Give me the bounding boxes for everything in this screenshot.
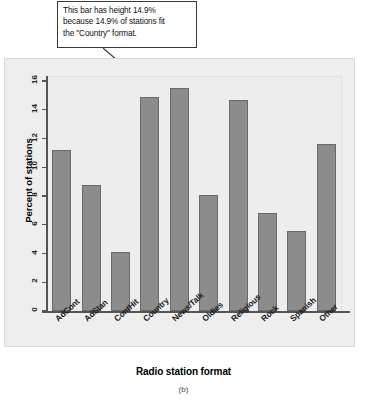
y-axis-tick-label: 12 (30, 129, 39, 145)
y-axis-tick (42, 109, 47, 110)
figure-caption: (b) (0, 385, 367, 394)
bar-other (317, 144, 336, 311)
callout-line-1: This bar has height 14.9% (63, 5, 192, 16)
bar-news-talk (170, 88, 189, 311)
bar-religious (229, 100, 248, 311)
bar-rock (258, 213, 277, 311)
y-axis-tick-label: 0 (30, 302, 39, 318)
y-axis-tick (42, 310, 47, 311)
y-axis-line (46, 76, 48, 312)
y-axis-tick (42, 253, 47, 254)
y-axis-tick-label: 6 (30, 215, 39, 231)
y-axis-tick (42, 167, 47, 168)
y-axis-tick-label: 8 (30, 187, 39, 203)
y-axis-tick (42, 138, 47, 139)
y-axis-tick-label: 2 (30, 273, 39, 289)
y-axis-tick-label: 10 (30, 158, 39, 174)
bar-country (140, 97, 159, 311)
callout-line-2: because 14.9% of stations fit (63, 16, 192, 27)
annotation-callout-box: This bar has height 14.9% because 14.9% … (57, 1, 197, 48)
bar-adcont (52, 150, 71, 311)
y-axis-tick (42, 224, 47, 225)
callout-line-3: the "Country" format. (63, 28, 192, 39)
y-axis-tick-label: 14 (30, 100, 39, 116)
bar-spanish (287, 231, 306, 312)
y-axis-tick (42, 80, 47, 81)
bar-adstan (82, 185, 101, 312)
x-axis-title: Radio station format (0, 366, 367, 377)
y-axis-tick-label: 16 (30, 72, 39, 88)
y-axis-tick (42, 282, 47, 283)
y-axis-tick (42, 195, 47, 196)
y-axis-tick-label: 4 (30, 244, 39, 260)
